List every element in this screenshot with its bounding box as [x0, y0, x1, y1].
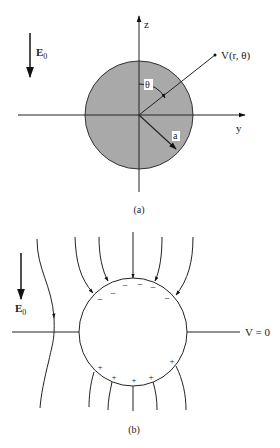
point-label: V(r, θ)	[221, 49, 251, 62]
field-line-far-left	[37, 239, 54, 318]
caption-b: (b)	[128, 424, 140, 436]
charge-pos: +	[97, 362, 102, 372]
charge-neg: −	[150, 282, 156, 293]
field-line-4	[155, 237, 162, 281]
y-axis-label: y	[236, 122, 242, 134]
charge-pos: +	[131, 375, 136, 385]
charge-neg: −	[122, 280, 128, 291]
figure-canvas: E0 z y V(r, θ) θ a (a) E0 V = 0	[0, 0, 280, 448]
field-line-b1	[89, 372, 94, 407]
conductor-sphere	[79, 278, 187, 386]
field-line-b2	[108, 382, 112, 410]
field-line-2	[99, 237, 108, 281]
field-point	[214, 54, 217, 57]
field-line-b4	[153, 382, 157, 410]
charge-neg: −	[164, 293, 170, 304]
angle-label: θ	[145, 79, 150, 90]
caption-a: (a)	[133, 204, 144, 216]
charge-pos: +	[111, 372, 116, 382]
field-e0-label-b: E0	[15, 302, 26, 317]
field-line-b5	[176, 366, 186, 410]
charge-neg: −	[97, 294, 103, 305]
radius-label: a	[173, 130, 178, 141]
field-e0-label-a: E0	[36, 46, 47, 61]
charge-pos: +	[169, 356, 174, 366]
field-line-5	[176, 237, 193, 295]
charge-pos: +	[148, 372, 153, 382]
field-line-1	[75, 237, 93, 293]
charge-neg: −	[137, 279, 143, 290]
figure-a: E0 z y V(r, θ) θ a (a)	[18, 16, 251, 216]
figure-b: E0 V = 0 − − − −	[12, 232, 270, 436]
charge-neg: −	[110, 288, 116, 299]
equipotential-label: V = 0	[245, 326, 270, 338]
z-axis-label: z	[144, 18, 149, 30]
